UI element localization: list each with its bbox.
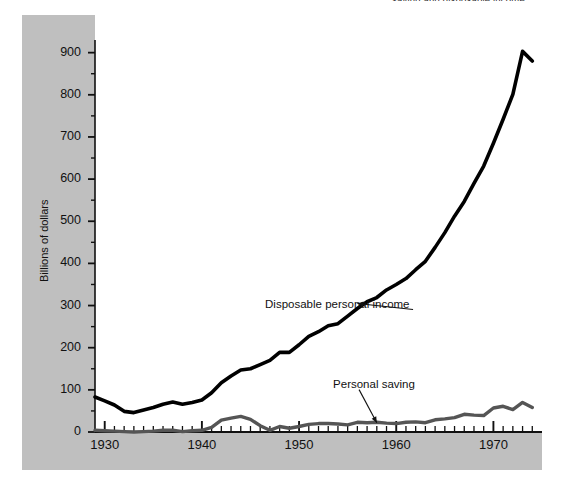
- y-tick-label: 0: [35, 424, 81, 438]
- y-tick-label: 800: [35, 87, 81, 101]
- y-tick-label: 500: [35, 213, 81, 227]
- chart-figure: saving and disposable income Billions of…: [0, 0, 564, 486]
- y-tick-label: 100: [35, 382, 81, 396]
- x-tick-label: 1930: [75, 437, 135, 452]
- axis-lines: [95, 40, 542, 432]
- x-tick-label: 1950: [269, 437, 329, 452]
- series-annotation-label: Personal saving: [333, 378, 415, 390]
- y-tick-label: 400: [35, 255, 81, 269]
- annotation-pointers: [357, 302, 413, 423]
- y-tick-label: 900: [35, 45, 81, 59]
- x-tick-label: 1940: [172, 437, 232, 452]
- y-tick-label: 200: [35, 340, 81, 354]
- x-tick-label: 1960: [366, 437, 426, 452]
- y-tick-label: 300: [35, 298, 81, 312]
- y-tick-label: 600: [35, 171, 81, 185]
- y-tick-label: 700: [35, 129, 81, 143]
- series-annotation-label: Disposable personal income: [265, 298, 409, 310]
- chart-plot-area: [0, 0, 564, 486]
- x-tick-label: 1970: [463, 437, 523, 452]
- series-lines: [95, 51, 532, 432]
